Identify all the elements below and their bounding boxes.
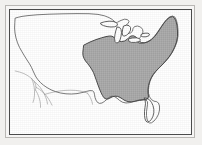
range-map [10, 10, 191, 134]
figure-root [0, 0, 202, 145]
figure-frame-inner [9, 9, 192, 135]
lake-ontario [141, 33, 150, 37]
lake-erie [129, 38, 141, 43]
range-shading-fill [10, 10, 191, 134]
